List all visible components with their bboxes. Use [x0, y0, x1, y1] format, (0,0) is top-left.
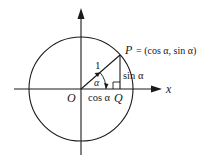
origin-label: O	[67, 91, 76, 105]
unit-circle-diagram: P = (cos α, sin α) 1 α sin α O cos α Q x	[0, 0, 220, 163]
angle-arrow-icon	[104, 83, 109, 89]
cosine-label: cos α	[88, 92, 111, 103]
point-q-label: Q	[114, 91, 123, 105]
point-p-coordinates: = (cos α, sin α)	[136, 45, 196, 57]
radius-line	[81, 55, 120, 89]
x-axis-arrow-icon	[151, 86, 162, 93]
sine-label: sin α	[123, 70, 144, 81]
right-angle-marker	[113, 82, 120, 89]
angle-arc	[100, 73, 106, 90]
x-axis-label: x	[165, 82, 172, 96]
point-p-label: P	[124, 43, 133, 57]
y-axis-arrow-icon	[78, 8, 85, 19]
angle-label: α	[94, 77, 100, 88]
radius-label: 1	[95, 59, 101, 71]
